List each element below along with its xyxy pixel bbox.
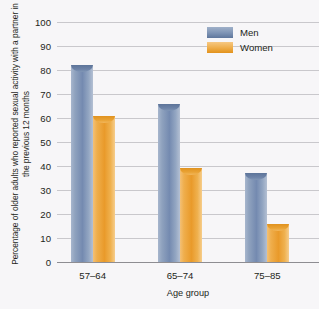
bar-women-57–64 bbox=[93, 116, 115, 262]
bar-men-65–74 bbox=[158, 104, 180, 262]
y-tick-label: 30 bbox=[40, 185, 51, 196]
legend-item-men: Men bbox=[207, 27, 273, 38]
bar-women-65–74 bbox=[180, 168, 202, 262]
bar-group bbox=[245, 22, 289, 262]
gridline bbox=[57, 262, 319, 263]
y-tick-label: 50 bbox=[40, 137, 51, 148]
legend-swatch-men-icon bbox=[207, 27, 233, 38]
bar-chart-figure: Percentage of older adults who reported … bbox=[0, 0, 319, 309]
bar-men-57–64 bbox=[71, 65, 93, 262]
y-axis-title: Percentage of older adults who reported … bbox=[8, 0, 34, 268]
bar-series-container bbox=[57, 22, 319, 262]
legend: Men Women bbox=[207, 27, 273, 53]
legend-label-men: Men bbox=[240, 27, 259, 38]
legend-label-women: Women bbox=[240, 42, 273, 53]
y-tick-label: 40 bbox=[40, 161, 51, 172]
legend-swatch-women-icon bbox=[207, 42, 233, 53]
y-tick-label: 70 bbox=[40, 89, 51, 100]
x-tick-label: 57–64 bbox=[79, 270, 106, 281]
x-tick-label: 75–85 bbox=[254, 270, 281, 281]
bar-men-75–85 bbox=[245, 173, 267, 262]
y-tick-label: 80 bbox=[40, 65, 51, 76]
y-tick-label: 0 bbox=[46, 257, 51, 268]
legend-item-women: Women bbox=[207, 42, 273, 53]
bar-women-75–85 bbox=[267, 224, 289, 262]
bar-group bbox=[158, 22, 202, 262]
y-tick-label: 20 bbox=[40, 209, 51, 220]
x-axis-title: Age group bbox=[57, 288, 319, 298]
y-tick-label: 10 bbox=[40, 233, 51, 244]
y-tick-label: 60 bbox=[40, 113, 51, 124]
y-tick-label: 100 bbox=[35, 17, 51, 28]
bar-group bbox=[71, 22, 115, 262]
plot-area: 0102030405060708090100 57–6465–7475–85 bbox=[57, 22, 319, 262]
y-tick-label: 90 bbox=[40, 41, 51, 52]
x-tick-label: 65–74 bbox=[167, 270, 194, 281]
